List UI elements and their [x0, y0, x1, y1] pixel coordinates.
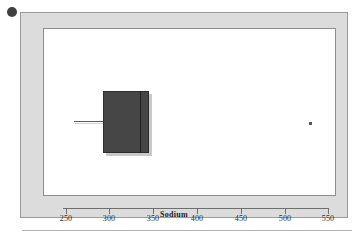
outlier-point: [309, 122, 312, 125]
box-iqr: [103, 91, 149, 153]
boxplot-graphics: [44, 29, 335, 195]
x-axis-title: Sodium: [0, 210, 362, 219]
x-axis-title-text: Sodium: [160, 210, 188, 219]
whisker-left-shadow: [75, 123, 105, 124]
figure-panel: 250 300 350 400 450 500 550: [20, 12, 348, 218]
bottom-divider: [22, 230, 352, 231]
median-line: [140, 91, 141, 153]
bullet-point-marker: [7, 7, 17, 17]
plot-area: [43, 28, 336, 196]
x-axis-line: [63, 208, 329, 209]
whisker-left: [74, 121, 104, 122]
